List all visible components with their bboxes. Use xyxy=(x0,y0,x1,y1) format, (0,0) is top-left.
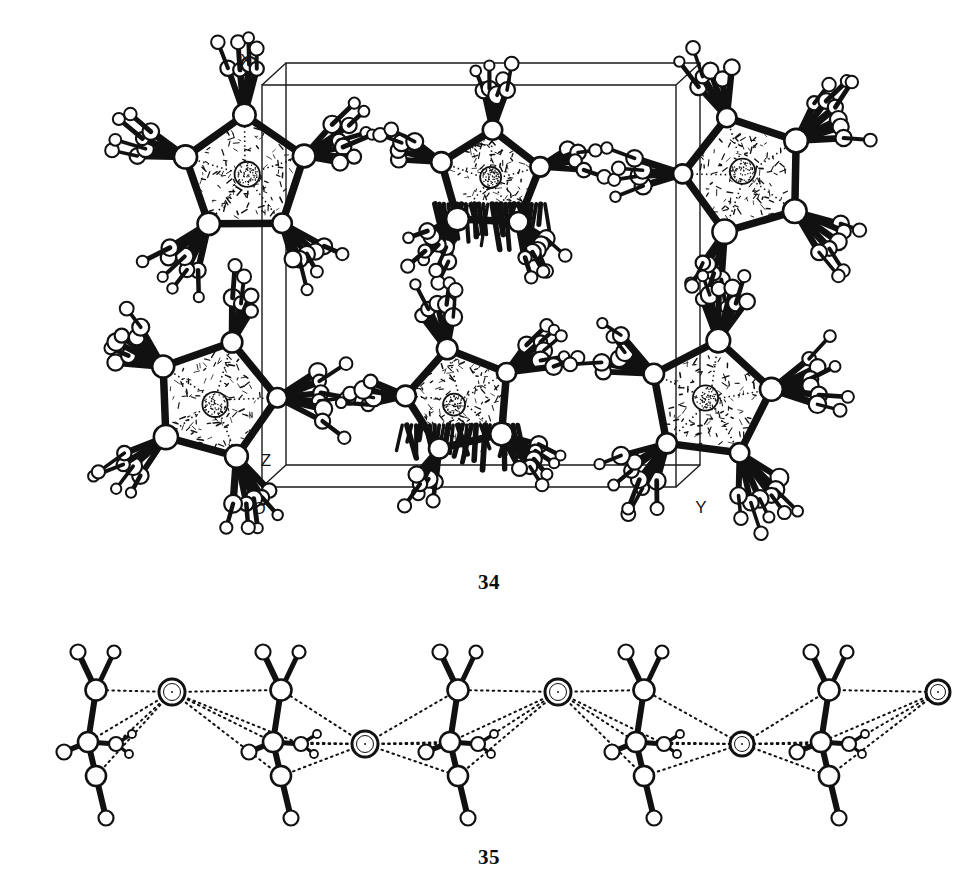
y-axis-label: Y xyxy=(695,498,706,517)
molecule-bottom-right xyxy=(563,270,854,540)
figure-35 xyxy=(0,620,978,830)
z-axis-label: Z xyxy=(261,451,271,470)
origin-label: O xyxy=(252,499,265,518)
x-axis-label: X xyxy=(240,51,251,70)
figure-35-canvas xyxy=(0,620,978,830)
chain-unit-1 xyxy=(57,645,137,826)
figure-plate: XYZO 34 35 xyxy=(0,0,978,893)
chain-unit-3 xyxy=(419,645,499,826)
figure-34: XYZO xyxy=(0,0,978,560)
coordination-contacts xyxy=(88,690,938,776)
bridge-atom-4 xyxy=(730,732,754,756)
molecule-bottom-left xyxy=(88,259,356,534)
figure-35-number: 35 xyxy=(0,845,978,870)
molecule-bottom-center xyxy=(336,277,585,512)
bridge-atom-3 xyxy=(545,679,571,705)
chain-unit-4 xyxy=(605,645,685,826)
chain-unit-2 xyxy=(242,645,322,826)
chain-unit-5 xyxy=(790,645,870,826)
bridge-atom-1 xyxy=(159,679,185,705)
bridge-atom-2 xyxy=(352,731,378,757)
molecule-top-center xyxy=(373,57,611,290)
bridge-atom-5 xyxy=(926,680,950,704)
figure-34-number: 34 xyxy=(0,570,978,595)
figure-34-canvas: XYZO xyxy=(0,0,978,560)
